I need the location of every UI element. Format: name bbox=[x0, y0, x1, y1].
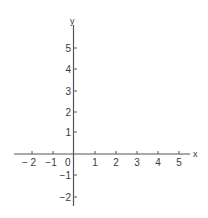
y-tick-label: 4 bbox=[65, 64, 71, 75]
y-tick-labels: 5 4 3 2 1 −1 −2 bbox=[60, 43, 72, 203]
y-tick-label: −2 bbox=[60, 192, 72, 203]
x-tick-label: 3 bbox=[134, 157, 140, 168]
y-tick-label: −1 bbox=[60, 170, 72, 181]
origin-label: 0 bbox=[65, 157, 71, 168]
x-tick-label: 4 bbox=[155, 157, 161, 168]
x-axis-label: x bbox=[193, 149, 198, 159]
y-tick-label: 2 bbox=[65, 107, 71, 118]
x-tick-label: 2 bbox=[113, 157, 119, 168]
x-tick-label: − 2 bbox=[22, 157, 37, 168]
y-tick-label: 1 bbox=[65, 127, 71, 138]
coordinate-plane: x y 0 − 2 −1 1 2 3 4 5 5 4 3 2 1 −1 − bbox=[0, 0, 208, 218]
y-axis-label: y bbox=[70, 16, 75, 26]
y-tick-label: 3 bbox=[65, 86, 71, 97]
x-tick-label: 1 bbox=[92, 157, 98, 168]
x-tick-label: 5 bbox=[176, 157, 182, 168]
x-tick-label: −1 bbox=[45, 157, 57, 168]
y-tick-label: 5 bbox=[65, 43, 71, 54]
x-tick-labels: − 2 −1 1 2 3 4 5 bbox=[22, 157, 182, 168]
